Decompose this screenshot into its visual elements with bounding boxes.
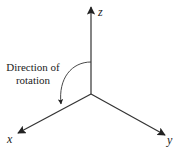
x-axis <box>18 94 91 133</box>
y-axis <box>91 94 165 135</box>
x-axis-label: x <box>7 133 12 145</box>
z-axis-label: z <box>98 6 103 18</box>
annotation-line-2: rotation <box>6 74 60 87</box>
y-axis-label: y <box>167 134 172 146</box>
rotation-annotation: Direction of rotation <box>6 61 60 87</box>
annotation-line-1: Direction of <box>6 61 60 74</box>
rotation-arrow <box>61 62 91 104</box>
